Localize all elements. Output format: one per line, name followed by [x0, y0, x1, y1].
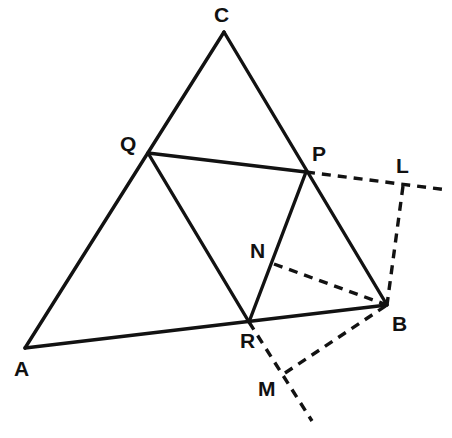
solid-edge-group: [25, 32, 387, 348]
dashed-edge-group: [249, 172, 448, 421]
point-label-A: A: [14, 358, 29, 379]
edge-Q-P: [148, 153, 306, 172]
dashed-L-B: [387, 186, 403, 305]
point-label-R: R: [240, 330, 255, 351]
edge-A-C: [25, 32, 224, 348]
point-label-L: L: [396, 155, 409, 176]
dashed-N-B: [274, 264, 387, 305]
point-label-B: B: [392, 313, 407, 334]
point-label-P: P: [312, 143, 326, 164]
point-label-C: C: [214, 4, 229, 25]
edge-C-B: [224, 32, 387, 305]
geometry-diagram: C Q P L N A R B M: [0, 0, 452, 438]
point-label-N: N: [250, 240, 265, 261]
dashed-P-L-extension: [306, 172, 448, 190]
edge-A-B: [25, 305, 387, 348]
dashed-R-M-extension: [249, 322, 312, 421]
edge-Q-R: [148, 153, 249, 322]
point-label-Q: Q: [120, 133, 136, 154]
point-label-M: M: [258, 378, 276, 399]
geometry-canvas: [0, 0, 452, 438]
